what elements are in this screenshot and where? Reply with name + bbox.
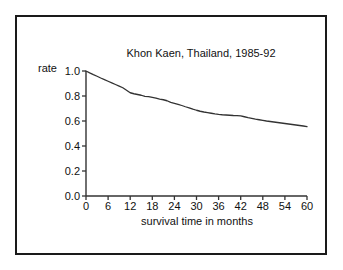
- survival-curve: [86, 71, 307, 127]
- figure-canvas: Khon Kaen, Thailand, 1985-92 rate surviv…: [0, 0, 343, 270]
- axes-group: [82, 71, 307, 200]
- chart-svg: [0, 0, 343, 270]
- plot-area: Khon Kaen, Thailand, 1985-92 rate surviv…: [0, 0, 343, 270]
